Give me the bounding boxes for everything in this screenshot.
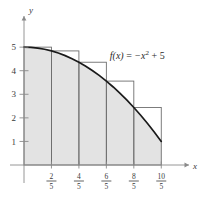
x-axis-label: x (192, 161, 197, 171)
x-tick-label-5: 105 (156, 172, 166, 191)
riemann-sum-plot: 1234525456585105xyf(x) = −x2 + 5 (0, 0, 211, 210)
y-axis-arrowhead (22, 16, 27, 21)
fraction-numerator: 8 (132, 172, 136, 181)
x-tick-label-3: 65 (101, 172, 111, 191)
x-tick-label-1: 25 (46, 172, 56, 191)
function-annotation: f(x) = −x2 + 5 (110, 49, 165, 62)
y-axis-label: y (28, 5, 33, 15)
y-tick-label-5: 5 (12, 42, 17, 52)
fraction-denominator: 5 (159, 182, 163, 191)
y-tick-label-2: 2 (12, 113, 17, 123)
x-tick-label-2: 45 (74, 172, 84, 191)
fraction-numerator: 6 (104, 172, 108, 181)
x-axis-arrowhead (185, 163, 190, 168)
fraction-denominator: 5 (77, 182, 81, 191)
fraction-denominator: 5 (132, 182, 136, 191)
fraction-denominator: 5 (50, 182, 54, 191)
fraction-numerator: 2 (50, 172, 54, 181)
y-tick-label-4: 4 (12, 66, 17, 76)
y-tick-label-3: 3 (12, 89, 17, 99)
cropped-caption-ghost (0, 200, 211, 210)
fraction-numerator: 10 (158, 172, 166, 181)
fraction-denominator: 5 (104, 182, 108, 191)
y-tick-label-1: 1 (12, 137, 17, 147)
shaded-area-under-curve (24, 47, 161, 165)
fraction-numerator: 4 (77, 172, 81, 181)
riemann-sum-figure: 1234525456585105xyf(x) = −x2 + 5 (0, 0, 211, 210)
x-tick-label-4: 85 (129, 172, 139, 191)
